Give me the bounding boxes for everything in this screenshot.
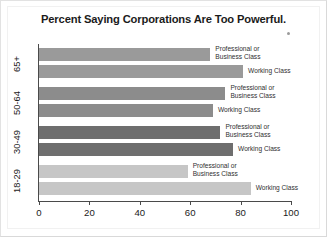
bar-series-label: Working Class	[233, 145, 280, 153]
x-axis-tick-mark	[241, 201, 242, 205]
bar-series-label: Working Class	[251, 184, 298, 192]
x-axis-tick-mark	[291, 201, 292, 205]
bar-series-label: Working Class	[213, 106, 260, 114]
bar[interactable]	[39, 65, 243, 78]
x-axis-line	[38, 201, 291, 202]
bar-series-label: Working Class	[243, 67, 290, 75]
bar-group-50-64: Professional orBusiness ClassWorking Cla…	[39, 84, 291, 123]
bar[interactable]	[39, 165, 188, 178]
bar-group-18-29: Professional orBusiness ClassWorking Cla…	[39, 162, 291, 201]
y-axis-tick-30-49: 30-49	[12, 124, 22, 160]
bar-row: Professional orBusiness Class	[39, 87, 225, 100]
chart-title: Percent Saying Corporations Are Too Powe…	[1, 13, 326, 25]
bar[interactable]	[39, 182, 251, 195]
x-axis-tick-label-40: 40	[125, 207, 155, 218]
x-axis-tick-mark	[39, 201, 40, 205]
bar-row: Working Class	[39, 65, 243, 78]
bar[interactable]	[39, 48, 210, 61]
bar-group-30-49: Professional orBusiness ClassWorking Cla…	[39, 123, 291, 162]
bar-row: Professional orBusiness Class	[39, 48, 210, 61]
bar[interactable]	[39, 87, 225, 100]
bar-row: Working Class	[39, 143, 233, 156]
y-axis-tick-65plus: 65+	[12, 46, 22, 82]
bar[interactable]	[39, 104, 213, 117]
x-axis-tick-label-60: 60	[175, 207, 205, 218]
x-axis-tick-mark	[140, 201, 141, 205]
bar-row: Professional orBusiness Class	[39, 165, 188, 178]
y-axis-tick-18-29: 18-29	[12, 163, 22, 199]
bar-row: Professional orBusiness Class	[39, 126, 220, 139]
bar-row: Working Class	[39, 182, 251, 195]
x-axis-tick-mark	[190, 201, 191, 205]
bar-series-label: Professional orBusiness Class	[220, 123, 270, 138]
x-axis-tick-label-20: 20	[74, 207, 104, 218]
y-axis-tick-50-64: 50-64	[12, 85, 22, 121]
bar-series-label: Professional orBusiness Class	[225, 84, 275, 99]
x-axis-tick-mark	[89, 201, 90, 205]
plot-area: Professional orBusiness ClassWorking Cla…	[39, 45, 291, 201]
bar[interactable]	[39, 143, 233, 156]
x-axis-tick-label-100: 100	[276, 207, 306, 218]
bar-group-65plus: Professional orBusiness ClassWorking Cla…	[39, 45, 291, 84]
x-axis-tick-label-80: 80	[226, 207, 256, 218]
bar-row: Working Class	[39, 104, 213, 117]
chart-figure: Percent Saying Corporations Are Too Powe…	[0, 0, 327, 237]
title-footnote-marker	[287, 32, 290, 35]
bar[interactable]	[39, 126, 220, 139]
bar-series-label: Professional orBusiness Class	[188, 162, 238, 177]
x-axis-tick-label-0: 0	[24, 207, 54, 218]
bar-series-label: Professional orBusiness Class	[210, 45, 260, 60]
